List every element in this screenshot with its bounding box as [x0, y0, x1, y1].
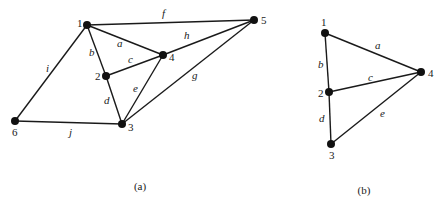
vertex-label-2: 2 [95, 70, 101, 82]
figure-b-caption: (b) [358, 184, 371, 197]
edge-label-d: d [319, 112, 325, 124]
vertex-label-2: 2 [318, 87, 324, 99]
edge-e [331, 72, 421, 144]
edge-label-e: e [133, 82, 138, 94]
vertex-3 [327, 140, 335, 148]
vertex-4 [159, 51, 167, 59]
edge-i [15, 25, 87, 121]
edge-label-h: h [184, 29, 190, 41]
vertex-label-3: 3 [329, 149, 335, 161]
vertex-label-6: 6 [12, 126, 18, 138]
vertex-3 [118, 120, 126, 128]
edge-label-b: b [318, 58, 324, 70]
edge-label-c: c [128, 53, 133, 65]
figure-a-edges [15, 20, 254, 124]
figure-a-labels: abcdefghij123456 [12, 7, 267, 138]
edge-label-i: i [46, 62, 49, 74]
vertex-label-3: 3 [128, 121, 134, 133]
edge-d [329, 92, 331, 144]
edge-label-d: d [104, 94, 110, 106]
vertex-5 [250, 16, 258, 24]
edge-a [87, 25, 163, 55]
vertex-2 [102, 72, 110, 80]
figure-a-caption: (a) [134, 180, 147, 193]
edge-label-g: g [192, 69, 198, 81]
edge-label-j: j [67, 126, 72, 138]
edge-b [325, 33, 329, 92]
edge-label-b: b [89, 46, 95, 58]
edge-label-a: a [375, 39, 381, 51]
vertex-label-4: 4 [169, 51, 175, 63]
edge-f [87, 20, 254, 25]
graph-diagram: abcdefghij123456 (a) abcde1234 (b) [0, 0, 441, 208]
vertex-label-1: 1 [77, 17, 83, 29]
vertex-label-5: 5 [261, 14, 267, 26]
figure-a: abcdefghij123456 (a) [11, 7, 267, 193]
edge-c [329, 72, 421, 92]
vertex-label-4: 4 [428, 67, 434, 79]
edge-c [106, 55, 163, 76]
edge-e [122, 55, 163, 124]
edge-label-f: f [162, 7, 167, 19]
figure-b-vertices [321, 29, 425, 148]
vertex-4 [417, 68, 425, 76]
edge-j [15, 121, 122, 124]
edge-label-a: a [117, 37, 123, 49]
vertex-6 [11, 117, 19, 125]
edge-label-c: c [368, 71, 373, 83]
vertex-1 [321, 29, 329, 37]
vertex-1 [83, 21, 91, 29]
edge-label-e: e [380, 107, 385, 119]
edge-a [325, 33, 421, 72]
edge-h [163, 20, 254, 55]
vertex-2 [325, 88, 333, 96]
vertex-label-1: 1 [321, 16, 327, 28]
figure-b: abcde1234 (b) [318, 16, 434, 197]
figure-b-edges [325, 33, 421, 144]
